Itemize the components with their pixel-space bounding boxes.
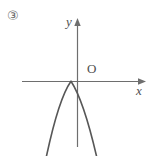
y-axis-arrowhead	[74, 18, 80, 26]
y-axis-label: y	[66, 15, 72, 28]
figure-container: ③ y x O	[0, 0, 159, 156]
x-axis-label: x	[136, 84, 142, 97]
origin-label: O	[87, 62, 96, 75]
item-number-label: ③	[7, 9, 19, 22]
coordinate-plane-graphic	[0, 0, 159, 156]
parabola-curve	[47, 81, 97, 156]
